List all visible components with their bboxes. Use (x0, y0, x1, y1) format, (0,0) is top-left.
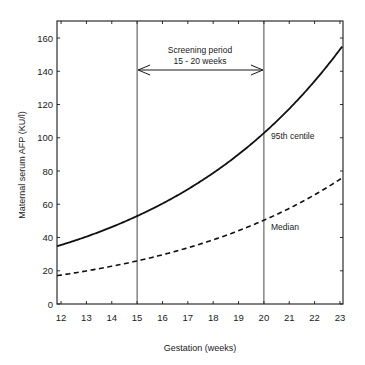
y-tick-label: 80 (42, 166, 53, 177)
y-tick-label: 20 (42, 265, 53, 276)
x-tick-label: 19 (233, 312, 244, 323)
x-tick-label: 22 (309, 312, 320, 323)
median-curve (57, 178, 342, 276)
afp-chart: 1213141516171819202122230204060801001201… (0, 0, 365, 365)
y-tick-label: 140 (37, 66, 53, 77)
y-tick-label: 120 (37, 99, 53, 110)
y-tick-label: 160 (37, 33, 53, 44)
x-tick-label: 17 (183, 312, 194, 323)
x-tick-label: 15 (132, 312, 143, 323)
x-axis-title: Gestation (weeks) (164, 343, 237, 353)
y-tick-label: 60 (42, 199, 53, 210)
x-tick-label: 18 (208, 312, 219, 323)
x-tick-label: 12 (56, 312, 67, 323)
x-tick-label: 16 (157, 312, 168, 323)
screening-annotation: Screening period 15 - 20 weeks (138, 45, 263, 75)
screening-label: Screening period (168, 45, 233, 55)
x-tick-label: 13 (81, 312, 92, 323)
screening-range-label: 15 - 20 weeks (174, 56, 227, 66)
y-tick-label: 40 (42, 232, 53, 243)
x-tick-label: 20 (259, 312, 270, 323)
tick-labels: 1213141516171819202122230204060801001201… (37, 33, 345, 324)
x-tick-label: 23 (335, 312, 346, 323)
median-label: Median (271, 222, 299, 232)
y-axis-title: Maternal serum AFP (KU/l) (17, 111, 27, 218)
y-tick-label: 0 (48, 299, 53, 310)
centile95-curve (57, 46, 342, 246)
double-arrow-icon (138, 65, 263, 75)
curves (57, 46, 342, 275)
x-tick-label: 21 (284, 312, 295, 323)
x-tick-label: 14 (106, 312, 117, 323)
centile95-label: 95th centile (271, 131, 315, 141)
y-tick-label: 100 (37, 132, 53, 143)
